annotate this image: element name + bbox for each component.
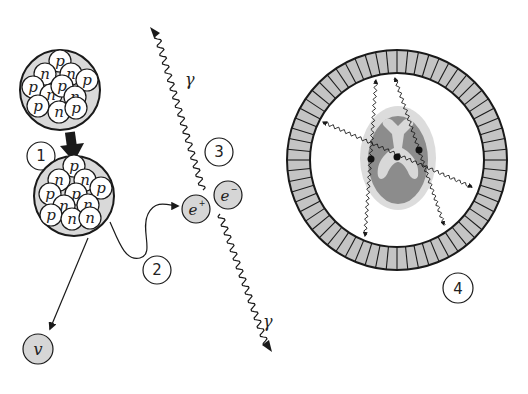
step-3-text: 3 — [214, 143, 224, 161]
nucleon-neutron: n — [79, 207, 101, 229]
gamma-bottom-label: γ — [263, 312, 273, 331]
positron: e + — [182, 195, 210, 223]
svg-text:p: p — [28, 78, 38, 96]
svg-text:p: p — [82, 71, 92, 89]
electron-sign: − — [231, 185, 238, 194]
gamma-arrow-down — [262, 340, 272, 352]
step-4-text: 4 — [453, 280, 463, 298]
step-4-label: 4 — [443, 273, 473, 303]
neutrino-path: v — [23, 238, 88, 364]
svg-text:p: p — [45, 185, 55, 203]
positron-sign: + — [199, 199, 206, 208]
electron: e − — [214, 181, 242, 209]
positron-path — [110, 204, 178, 258]
gamma-arrow-up — [150, 27, 160, 38]
svg-text:p: p — [46, 206, 56, 224]
nucleus-before: pnnppnpnpnp — [20, 50, 100, 130]
step-1-text: 1 — [36, 147, 46, 165]
nucleus-after: pnnpppnnpnn — [34, 155, 114, 236]
step-2-text: 2 — [152, 261, 162, 279]
svg-text:n: n — [85, 209, 95, 227]
nucleon-proton: p — [40, 204, 62, 226]
gamma-rays: γ γ — [150, 27, 273, 352]
pet-diagram: pnnppnpnpnp 1 pnnpppnnpnn v 2 γ γ — [0, 0, 528, 394]
svg-text:p: p — [71, 99, 81, 117]
svg-text:p: p — [96, 179, 106, 197]
nucleon-proton: p — [27, 95, 49, 117]
svg-text:n: n — [67, 210, 77, 228]
gamma-top-label: γ — [185, 70, 195, 89]
positron-symbol: e — [189, 201, 198, 219]
svg-text:n: n — [54, 103, 64, 121]
step-2-label: 2 — [143, 256, 171, 284]
neutrino-symbol: v — [33, 340, 42, 359]
electron-symbol: e — [221, 187, 230, 205]
svg-text:p: p — [33, 97, 43, 115]
nucleon-proton: p — [65, 97, 87, 119]
step-3-label: 3 — [205, 138, 233, 166]
